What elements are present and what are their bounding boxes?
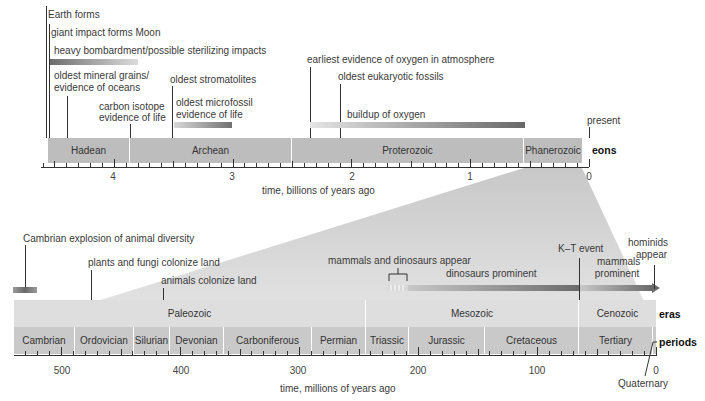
mineral-grains-line <box>67 96 68 138</box>
label-mineral-grains-1: oldest mineral grains/ <box>54 70 149 82</box>
axis-tick <box>644 351 645 355</box>
axis-tick <box>180 347 181 355</box>
axis-tick <box>228 351 229 355</box>
axis-tick <box>275 351 276 355</box>
axis-tick <box>263 351 264 355</box>
axis-tick <box>494 163 495 167</box>
axis-tick <box>394 351 395 355</box>
label-cambrian-explosion: Cambrian explosion of animal diversity <box>23 233 194 245</box>
axis-tick <box>430 351 431 355</box>
axis-tick <box>328 163 329 167</box>
axis-tick <box>446 163 447 167</box>
axis-tick <box>518 163 519 167</box>
axis-tick <box>351 159 352 167</box>
axis-tick <box>268 163 269 167</box>
periods-axis <box>14 355 657 356</box>
axis-tick <box>43 163 44 167</box>
axis-tick <box>244 163 245 167</box>
axis-tick <box>470 159 471 167</box>
axis-tick <box>632 351 633 355</box>
label-eukaryotic: oldest eukaryotic fossils <box>338 71 444 83</box>
eons-axis-title: time, billions of years ago <box>262 185 375 197</box>
label-hominids-1: hominids <box>628 237 668 249</box>
tick-label-4ga: 4 <box>110 171 116 182</box>
axis-tick <box>132 351 133 355</box>
axis-tick <box>656 347 657 355</box>
tick-label-3ga: 3 <box>229 171 235 182</box>
period-jurassic: Jurassic <box>409 327 485 354</box>
axis-tick <box>173 161 174 167</box>
axis-tick <box>168 351 169 355</box>
axis-tick <box>506 163 507 167</box>
tick-label-0ga: 0 <box>586 171 592 182</box>
label-microfossil-1: oldest microfossil <box>176 97 253 109</box>
axis-tick <box>256 163 257 167</box>
eons-axis <box>41 167 589 168</box>
axis-tick <box>292 161 293 167</box>
axis-tick <box>363 163 364 167</box>
axis-tick <box>375 163 376 167</box>
tick-label-0ma: 0 <box>653 365 659 376</box>
axis-tick <box>489 351 490 355</box>
axis-tick <box>323 351 324 355</box>
axis-tick <box>85 351 86 355</box>
axis-tick <box>185 163 186 167</box>
label-mineral-grains-2: evidence of oceans <box>54 82 140 94</box>
hominids-line <box>654 265 655 289</box>
label-dinosaurs-prominent: dinosaurs prominent <box>446 268 537 280</box>
microfossil-bar <box>174 122 232 128</box>
axis-tick <box>585 351 586 355</box>
axis-tick <box>49 351 50 355</box>
label-mammals-dinosaurs: mammals and dinosaurs appear <box>328 255 471 267</box>
label-quaternary: Quaternary <box>618 378 668 390</box>
axis-tick <box>149 163 150 167</box>
axis-tick <box>61 347 62 355</box>
axis-tick <box>608 351 609 355</box>
axis-tick <box>530 161 531 167</box>
axis-tick <box>97 351 98 355</box>
eon-proterozoic: Proterozoic <box>292 138 524 163</box>
axis-tick <box>78 163 79 167</box>
axis-tick <box>280 163 281 167</box>
present-line <box>589 127 590 138</box>
axis-tick <box>251 351 252 355</box>
eon-hadean: Hadean <box>48 138 130 163</box>
axis-tick <box>240 349 241 355</box>
axis-tick <box>501 351 502 355</box>
label-earth-forms: Earth forms <box>48 9 100 21</box>
axis-tick <box>359 349 360 355</box>
label-plants-fungi: plants and fungi colonize land <box>88 257 220 269</box>
period-ordovician: Ordovician <box>75 327 134 354</box>
axis-tick <box>304 163 305 167</box>
label-oxygen-earliest: earliest evidence of oxygen in atmospher… <box>307 54 494 66</box>
axis-tick <box>442 351 443 355</box>
cambrian-explosion-bar <box>13 287 37 293</box>
axis-tick <box>156 351 157 355</box>
axis-tick <box>233 159 234 167</box>
axis-tick <box>102 163 103 167</box>
axis-tick <box>423 163 424 167</box>
eon-phanerozoic: Phanerozoic <box>524 138 582 163</box>
tick-label-400ma: 400 <box>173 365 190 376</box>
axis-tick <box>597 349 598 355</box>
axis-tick <box>126 163 127 167</box>
eras-bar: Paleozoic Mesozoic Cenozoic <box>14 300 656 327</box>
oxygen-buildup-bar <box>310 122 525 128</box>
axis-tick <box>458 163 459 167</box>
axis-tick <box>54 161 55 167</box>
periods-row-label: periods <box>659 336 697 348</box>
period-cambrian: Cambrian <box>14 327 75 354</box>
axis-tick <box>340 163 341 167</box>
axis-tick <box>553 163 554 167</box>
tick-label-200ma: 200 <box>410 365 427 376</box>
eon-archean: Archean <box>130 138 292 163</box>
label-heavy-bombardment: heavy bombardment/possible sterilizing i… <box>54 45 266 57</box>
period-triassic: Triassic <box>366 327 409 354</box>
moon-line <box>49 24 50 138</box>
tick-label-1ga: 1 <box>467 171 473 182</box>
label-giant-impact: giant impact forms Moon <box>51 27 161 39</box>
era-cenozoic: Cenozoic <box>579 300 656 327</box>
eons-row-label: eons <box>592 144 617 156</box>
axis-tick <box>541 163 542 167</box>
axis-tick <box>577 163 578 167</box>
